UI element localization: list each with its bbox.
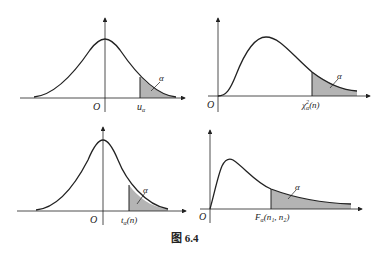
quantile-label: uα [137,101,146,113]
alpha-label: α [143,185,148,195]
shaded-tail-area [312,72,357,96]
alpha-label: α [337,71,342,81]
quantile-label: Fα(n₁, n₂) [254,212,289,223]
panel-chi-square: α O χ2α(n) [207,18,370,112]
panel-t: α O tα(n) [17,127,186,226]
alpha-label: α [159,73,164,83]
origin-label: O [93,101,100,112]
panel-normal: α O uα [20,18,185,113]
origin-label: O [90,214,97,225]
quantile-label: χ2α(n) [301,99,320,111]
figure-canvas: α O uα α O χ2α(n) α O tα(n) α O Fα(n [0,0,377,257]
origin-label: O [207,99,214,110]
origin-label: O [199,211,206,222]
shaded-tail-area [271,189,351,209]
figure-caption: 图 6.4 [171,232,199,244]
density-curve [36,140,168,210]
alpha-label: α [295,182,300,192]
quantile-label: tα(n) [121,215,137,226]
panel-f: α O Fα(n₁, n₂) [199,130,362,223]
